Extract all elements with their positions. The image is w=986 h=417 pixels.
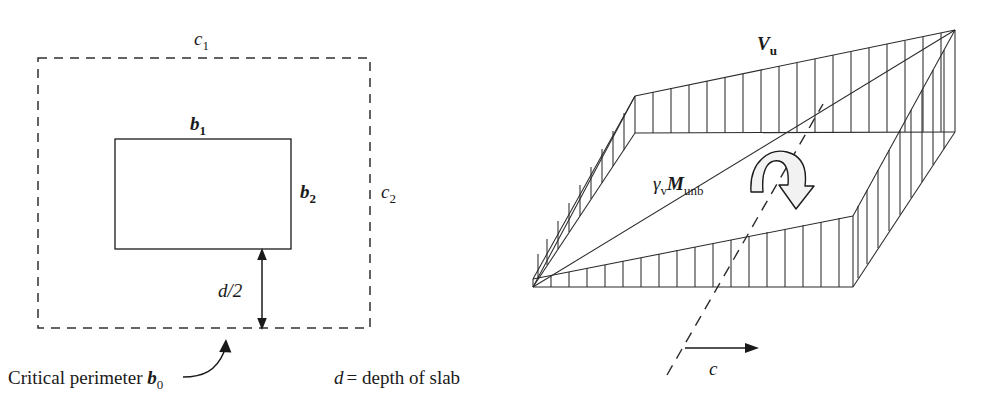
front-wall-hatch xyxy=(551,218,839,287)
c-axis-arrow xyxy=(685,343,759,353)
label-Vu: Vu xyxy=(757,33,777,58)
left-plan-diagram: c1 c2 b1 b2 d/2 Critical perimeter b0 d=… xyxy=(0,0,493,417)
leader-arrowhead xyxy=(219,339,231,353)
label-gamma-v-M-unb: γvMunb xyxy=(653,173,703,198)
right-3d-shear-diagram: Vu γvMunb c xyxy=(493,0,986,417)
caption-critical-perimeter: Critical perimeter b0 xyxy=(8,367,163,392)
note-depth-of-slab: d= depth of slab xyxy=(334,367,460,388)
right-wall-group xyxy=(853,30,955,287)
critical-perimeter-rect xyxy=(38,58,370,328)
critical-perimeter-leader xyxy=(183,339,231,377)
label-b1: b1 xyxy=(190,113,206,138)
figure-root: c1 c2 b1 b2 d/2 Critical perimeter b0 d=… xyxy=(0,0,986,417)
column-rect xyxy=(115,139,291,249)
label-b2: b2 xyxy=(300,181,316,206)
bending-axis xyxy=(667,104,823,375)
front-wall-group xyxy=(533,216,853,287)
slab-diagonals xyxy=(533,30,955,287)
label-c2: c2 xyxy=(381,181,396,206)
label-c1: c1 xyxy=(194,28,209,53)
right-wall-hatch xyxy=(858,50,944,278)
moment-arrow-icon xyxy=(751,151,814,209)
dim-arrowhead-top xyxy=(257,248,267,260)
label-d-over-2: d/2 xyxy=(218,280,243,301)
d-over-2-dimension xyxy=(257,248,267,330)
label-c-axis: c xyxy=(709,358,718,379)
c-arrowhead xyxy=(745,343,759,353)
